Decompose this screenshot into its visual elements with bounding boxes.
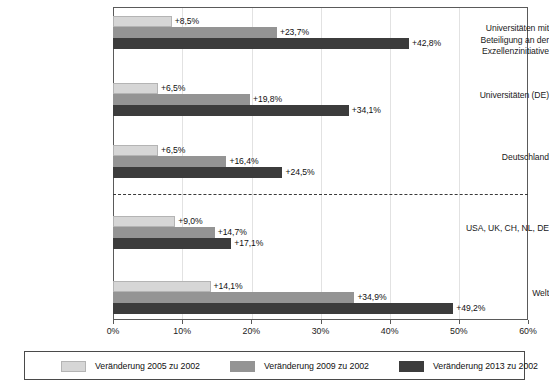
series-2-swatch-icon (399, 361, 424, 372)
x-axis-tick-label: 40% (381, 326, 399, 336)
group-separator (113, 194, 528, 195)
gridline (321, 8, 322, 319)
bar-value-label: +17,1% (234, 238, 263, 249)
bar-value-label: +6,5% (161, 145, 185, 156)
bar-series-0-category-4 (113, 281, 211, 292)
x-axis-tick-label: 20% (243, 326, 261, 336)
x-axis-tick (182, 320, 183, 324)
legend-item-0: Veränderung 2005 zu 2002 (61, 358, 200, 374)
x-axis-tick (321, 320, 322, 324)
bar-series-1-category-3 (113, 227, 215, 238)
x-axis-tick-label: 30% (312, 326, 330, 336)
bar-series-1-category-0 (113, 27, 277, 38)
category-label-line: Beteiligung an der (441, 35, 549, 47)
bar-value-label: +9,0% (178, 216, 202, 227)
legend-label: Veränderung 2013 zu 2002 (433, 361, 538, 371)
x-axis-tick-label: 10% (173, 326, 191, 336)
bar-series-1-category-4 (113, 292, 354, 303)
series-1-swatch-icon (230, 361, 255, 372)
category-label-line: Universitäten (DE) (441, 90, 549, 102)
x-axis-tick (528, 320, 529, 324)
bar-series-1-category-1 (113, 94, 250, 105)
category-label-4: Welt (441, 288, 549, 300)
bar-value-label: +8,5% (175, 16, 199, 27)
category-label-line: Universitäten mit (441, 23, 549, 35)
category-label-line: Deutschland (441, 152, 549, 164)
series-0-swatch-icon (61, 361, 86, 372)
bar-series-2-category-2 (113, 167, 282, 178)
category-label-0: Universitäten mit Beteiligung an der Exz… (441, 23, 549, 58)
x-axis-tick (390, 320, 391, 324)
category-label-2: Deutschland (441, 152, 549, 164)
bar-series-2-category-0 (113, 38, 409, 49)
bar-series-2-category-1 (113, 105, 349, 116)
category-label-1: Universitäten (DE) (441, 90, 549, 102)
legend: Veränderung 2005 zu 2002 Veränderung 200… (24, 351, 525, 380)
legend-label: Veränderung 2005 zu 2002 (95, 361, 200, 371)
legend-item-2: Veränderung 2013 zu 2002 (399, 358, 538, 374)
category-label-line: Exzellenzinitiative (441, 46, 549, 58)
x-axis-tick (113, 320, 114, 324)
bar-series-2-category-3 (113, 238, 231, 249)
legend-label: Veränderung 2009 zu 2002 (264, 361, 369, 371)
x-axis-tick (459, 320, 460, 324)
legend-item-1: Veränderung 2009 zu 2002 (230, 358, 369, 374)
bar-value-label: +16,4% (229, 156, 258, 167)
bar-value-label: +34,9% (357, 292, 386, 303)
category-label-line: USA, UK, CH, NL, DE (441, 223, 549, 235)
bar-series-2-category-4 (113, 303, 453, 314)
bar-value-label: +14,1% (214, 281, 243, 292)
x-axis-tick-label: 50% (450, 326, 468, 336)
category-label-3: USA, UK, CH, NL, DE (441, 223, 549, 235)
bar-value-label: +19,8% (253, 94, 282, 105)
bar-chart: Universitäten mit Beteiligung an der Exz… (0, 0, 549, 387)
bar-series-0-category-1 (113, 83, 158, 94)
bar-series-0-category-3 (113, 216, 175, 227)
bar-series-1-category-2 (113, 156, 226, 167)
bar-value-label: +49,2% (456, 303, 485, 314)
x-axis-tick (251, 320, 252, 324)
bar-value-label: +34,1% (352, 105, 381, 116)
bar-value-label: +42,8% (412, 38, 441, 49)
bar-series-0-category-0 (113, 16, 172, 27)
x-axis-tick-label: 60% (519, 326, 537, 336)
category-label-line: Welt (441, 288, 549, 300)
bar-series-0-category-2 (113, 145, 158, 156)
bar-value-label: +24,5% (285, 167, 314, 178)
bar-value-label: +6,5% (161, 83, 185, 94)
bar-value-label: +14,7% (218, 227, 247, 238)
x-axis-tick-label: 0% (107, 326, 120, 336)
bar-value-label: +23,7% (280, 27, 309, 38)
gridline (390, 8, 391, 319)
